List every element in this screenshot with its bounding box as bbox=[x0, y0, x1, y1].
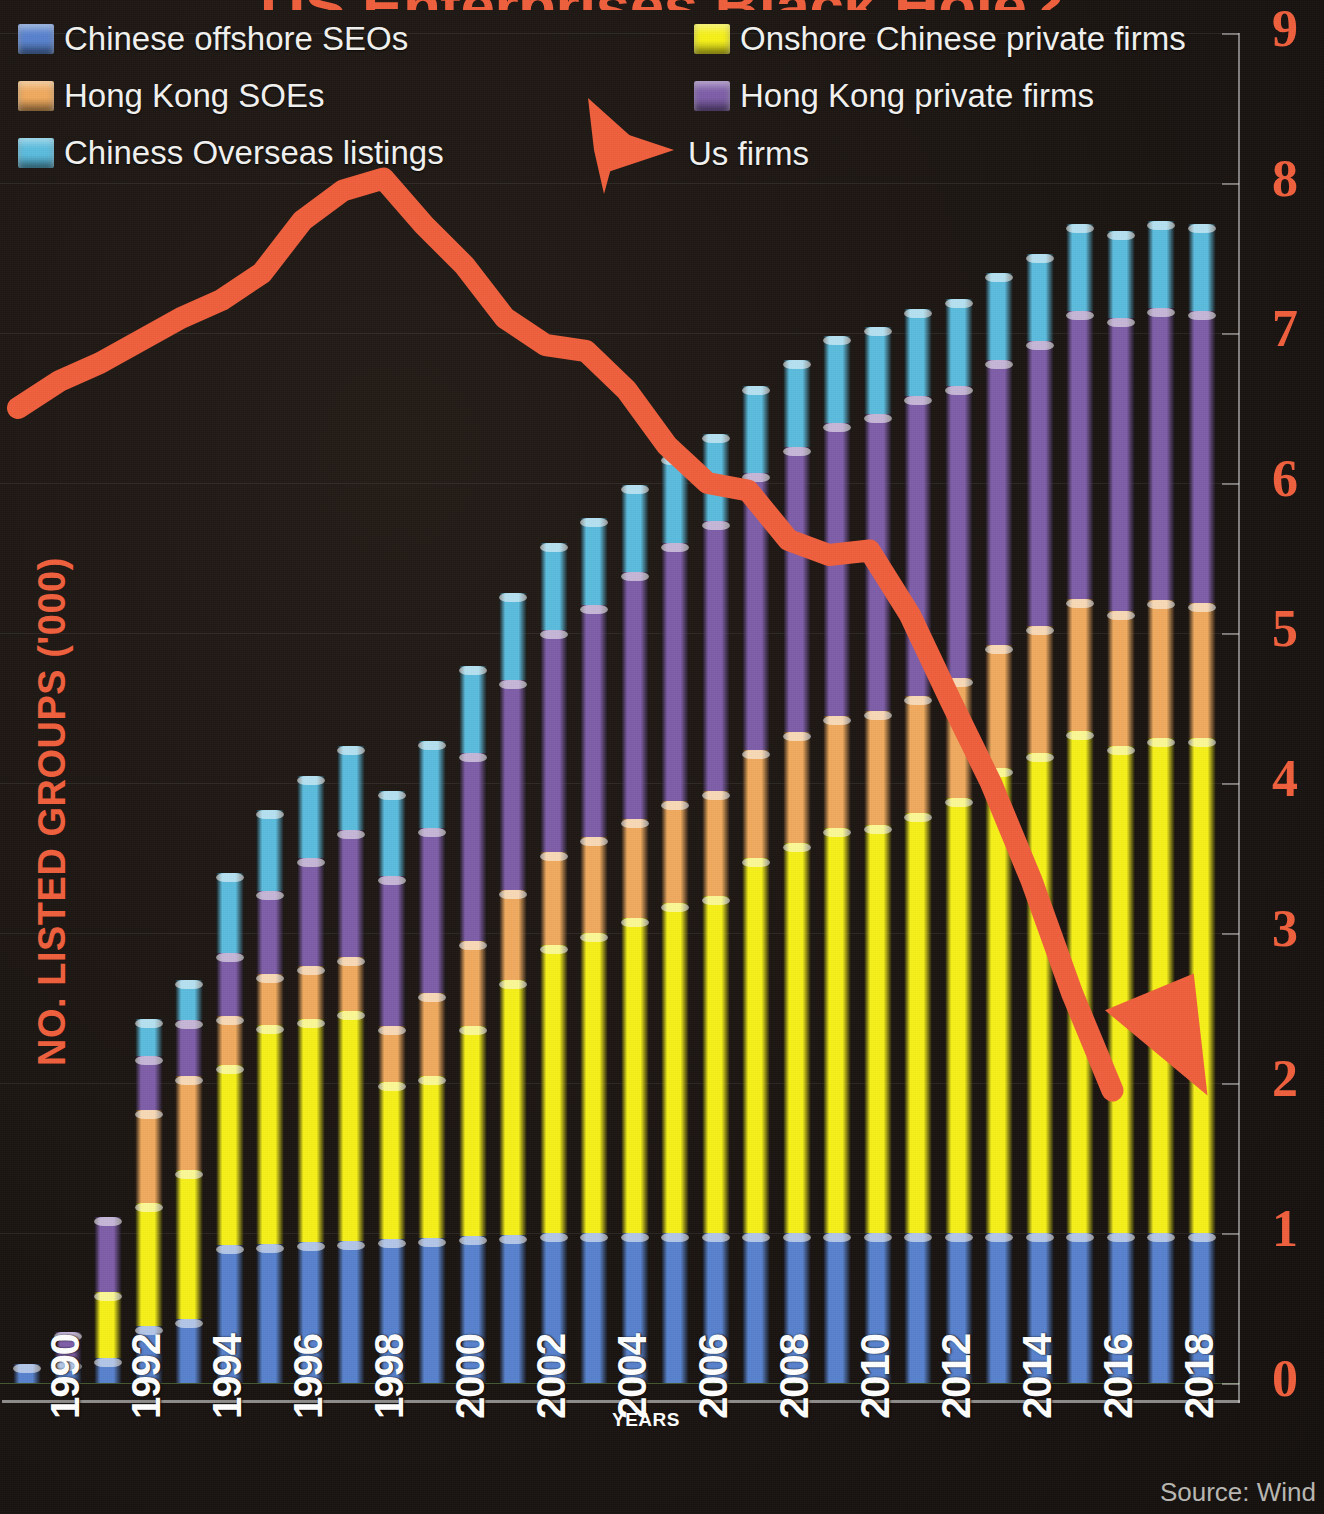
legend-label: Chiness Overseas listings bbox=[64, 136, 444, 169]
y-tick-mark bbox=[1222, 933, 1239, 935]
y-tick-label: 1 bbox=[1272, 1203, 1298, 1255]
y-tick-mark bbox=[1222, 483, 1239, 485]
y-tick-label: 7 bbox=[1272, 303, 1298, 355]
x-tick-label: 1998 bbox=[367, 1334, 412, 1419]
y-tick-label: 8 bbox=[1272, 153, 1298, 205]
legend-color-swatch bbox=[18, 81, 54, 111]
legend-label: Hong Kong private firms bbox=[740, 79, 1094, 112]
us-firms-arrowhead bbox=[1105, 973, 1208, 1095]
x-tick-label: 1996 bbox=[286, 1334, 331, 1419]
x-tick-label: 2014 bbox=[1015, 1334, 1060, 1419]
y-tick-mark bbox=[1222, 1233, 1239, 1235]
legend-item[interactable]: Hong Kong SOEs bbox=[18, 79, 325, 112]
legend-item[interactable]: Chinese offshore SEOs bbox=[18, 22, 408, 55]
arrow-right-icon bbox=[618, 136, 678, 170]
x-tick-label: 1992 bbox=[124, 1334, 169, 1419]
x-tick-label: 2012 bbox=[934, 1334, 979, 1419]
y-tick-mark bbox=[1222, 333, 1239, 335]
y-tick-mark bbox=[1222, 183, 1239, 185]
y-axis-title: NO. LISTED GROUPS ('000) bbox=[31, 482, 74, 1142]
y-tick-label: 2 bbox=[1272, 1053, 1298, 1105]
x-tick-label: 2016 bbox=[1096, 1334, 1141, 1419]
x-axis-title: YEARS bbox=[612, 1409, 680, 1431]
legend-color-swatch bbox=[694, 81, 730, 111]
x-tick-label: 2000 bbox=[448, 1334, 493, 1419]
legend-color-swatch bbox=[18, 24, 54, 54]
legend-item[interactable]: Onshore Chinese private firms bbox=[694, 22, 1186, 55]
y-tick-mark bbox=[1222, 1383, 1239, 1385]
us-firms-line-chart bbox=[0, 0, 1324, 1514]
y-tick-label: 6 bbox=[1272, 453, 1298, 505]
legend-item[interactable]: Chiness Overseas listings bbox=[18, 136, 444, 169]
x-tick-label: 2002 bbox=[529, 1334, 574, 1419]
x-tick-label: 2008 bbox=[772, 1334, 817, 1419]
x-tick-label: 1994 bbox=[205, 1334, 250, 1419]
source-note: Source: Wind bbox=[1160, 1477, 1316, 1508]
y-tick-mark bbox=[1222, 783, 1239, 785]
y-tick-mark bbox=[1222, 633, 1239, 635]
legend-label: Hong Kong SOEs bbox=[64, 79, 325, 112]
legend-label: Onshore Chinese private firms bbox=[740, 22, 1186, 55]
x-tick-label: 2010 bbox=[853, 1334, 898, 1419]
y-tick-mark bbox=[1222, 1083, 1239, 1085]
x-tick-label: 2006 bbox=[691, 1334, 736, 1419]
y-tick-label: 3 bbox=[1272, 903, 1298, 955]
us-firms-line-path bbox=[18, 179, 1113, 1091]
legend-color-swatch bbox=[18, 138, 54, 168]
y-tick-label: 0 bbox=[1272, 1353, 1298, 1405]
legend-item[interactable]: Hong Kong private firms bbox=[694, 79, 1094, 112]
chart-legend: Chinese offshore SEOsOnshore Chinese pri… bbox=[18, 22, 1248, 172]
y-tick-label: 5 bbox=[1272, 603, 1298, 655]
x-tick-label: 2018 bbox=[1177, 1334, 1222, 1419]
chart-canvas: US Enterprises Black Hole? 0123456789 19… bbox=[0, 0, 1324, 1514]
x-tick-label: 2004 bbox=[610, 1334, 655, 1419]
plot-area: 0123456789 19901992199419961998200020022… bbox=[0, 0, 1324, 1514]
y-axis-line bbox=[1238, 33, 1240, 1403]
legend-label: Chinese offshore SEOs bbox=[64, 22, 408, 55]
y-tick-label: 9 bbox=[1272, 3, 1298, 55]
legend-color-swatch bbox=[694, 24, 730, 54]
x-tick-label: 1990 bbox=[43, 1334, 88, 1419]
y-tick-label: 4 bbox=[1272, 753, 1298, 805]
legend-item[interactable]: Us firms bbox=[618, 136, 809, 170]
legend-label: Us firms bbox=[688, 137, 809, 170]
